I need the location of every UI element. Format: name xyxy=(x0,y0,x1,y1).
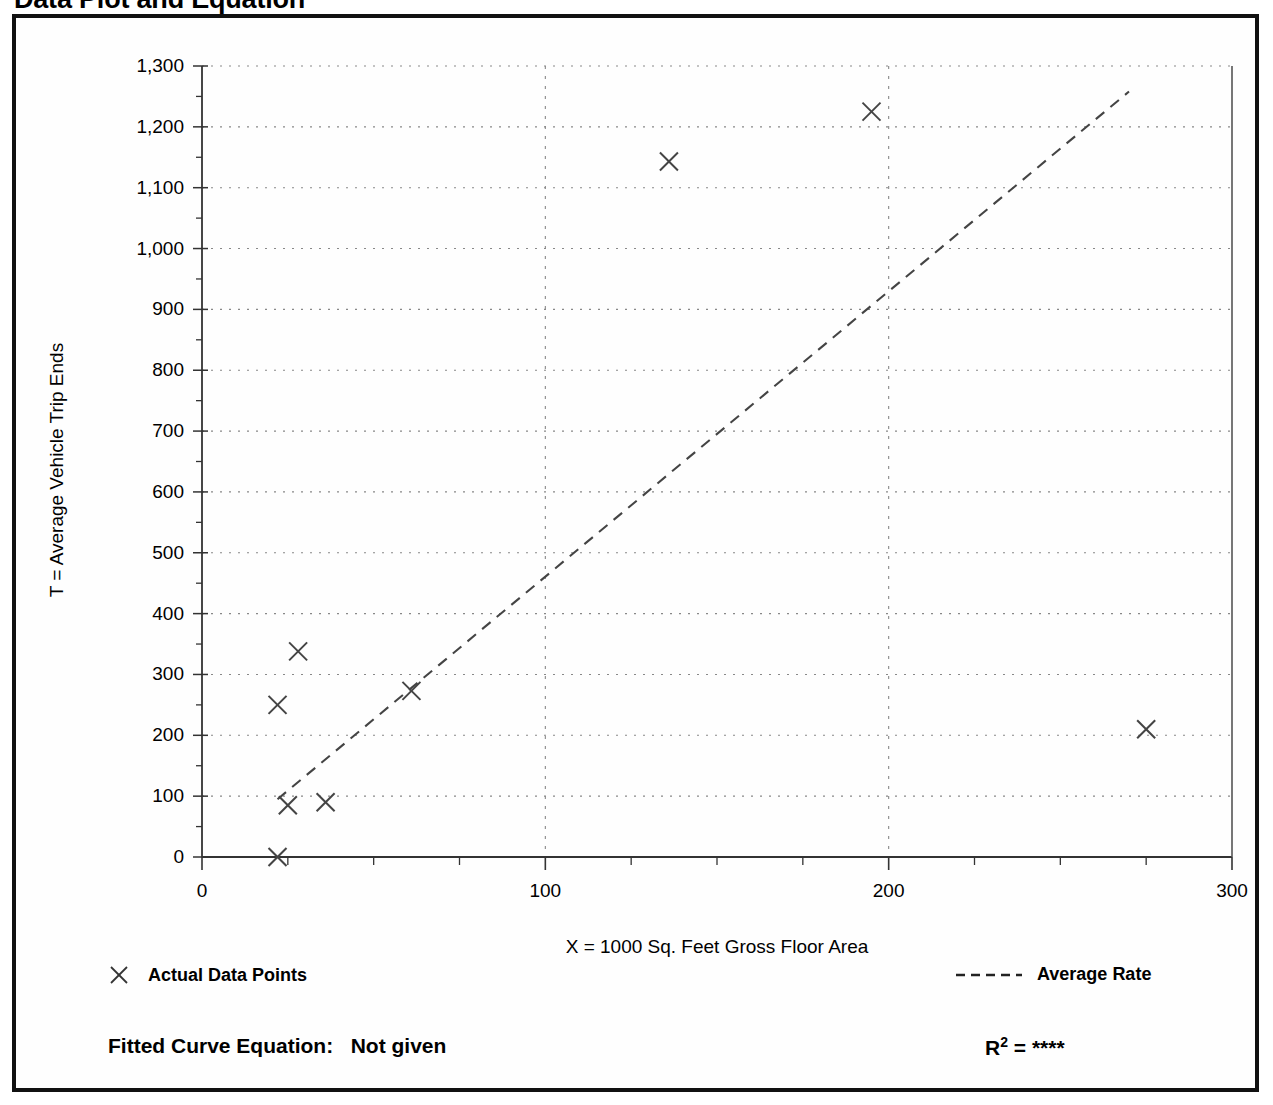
y-axis-tick-label: 200 xyxy=(74,725,184,744)
y-axis-tick-label: 400 xyxy=(74,604,184,623)
data-point-marker xyxy=(660,153,678,171)
data-point-marker xyxy=(269,696,287,714)
r-squared-label: R xyxy=(985,1036,1000,1059)
fitted-curve-equation: Fitted Curve Equation: Not given xyxy=(108,1034,446,1058)
data-point-marker xyxy=(1137,720,1155,738)
legend-entry-actual-data-points: Actual Data Points xyxy=(108,964,307,986)
r-squared-exponent: 2 xyxy=(1000,1034,1008,1050)
y-axis-tick-label: 900 xyxy=(74,299,184,318)
x-marker-icon xyxy=(108,964,130,986)
r-squared-equals: = xyxy=(1014,1036,1026,1059)
equation-row: Fitted Curve Equation: Not given R2 = **… xyxy=(0,1034,1273,1074)
r-squared-stars: **** xyxy=(1032,1036,1065,1059)
y-axis-title: T = Average Vehicle Trip Ends xyxy=(46,20,68,920)
axis-lines xyxy=(202,66,1232,857)
horizontal-gridlines xyxy=(202,66,1232,796)
average-rate-trendline xyxy=(278,92,1129,800)
x-axis-tick-label: 0 xyxy=(157,881,247,900)
data-point-marker xyxy=(279,796,297,814)
data-point-marker xyxy=(317,793,335,811)
y-axis-tick-label: 800 xyxy=(74,360,184,379)
fitted-curve-value: Not given xyxy=(351,1034,447,1057)
dashed-line-icon xyxy=(955,969,1023,981)
x-axis-tick-label: 200 xyxy=(844,881,934,900)
y-axis-tick-label: 1,200 xyxy=(74,117,184,136)
x-axis-tick-marks xyxy=(202,857,1232,870)
data-point-marker xyxy=(863,103,881,121)
legend-label-actual-data-points: Actual Data Points xyxy=(148,965,307,986)
y-axis-tick-label: 1,100 xyxy=(74,178,184,197)
chart-legend: Actual Data Points Average Rate xyxy=(0,964,1273,1004)
fitted-curve-label: Fitted Curve Equation: xyxy=(108,1034,333,1057)
y-axis-tick-label: 0 xyxy=(74,847,184,866)
y-axis-tick-marks xyxy=(193,66,208,857)
data-point-markers xyxy=(269,103,1156,866)
y-axis-tick-label: 600 xyxy=(74,482,184,501)
y-axis-tick-label: 500 xyxy=(74,543,184,562)
data-point-marker xyxy=(289,642,307,660)
legend-entry-average-rate: Average Rate xyxy=(955,964,1151,985)
x-axis-tick-label: 100 xyxy=(500,881,590,900)
y-axis-tick-label: 1,300 xyxy=(74,56,184,75)
data-point-marker xyxy=(402,682,420,700)
x-axis-title: X = 1000 Sq. Feet Gross Floor Area xyxy=(202,936,1232,958)
y-axis-tick-label: 700 xyxy=(74,421,184,440)
r-squared-value: R2 = **** xyxy=(985,1034,1065,1060)
y-axis-tick-label: 100 xyxy=(74,786,184,805)
scatter-chart: T = Average Vehicle Trip Ends X = 1000 S… xyxy=(0,0,1273,1105)
legend-label-average-rate: Average Rate xyxy=(1037,964,1151,985)
vertical-gridlines xyxy=(545,66,888,857)
x-axis-tick-label: 300 xyxy=(1187,881,1273,900)
y-axis-tick-label: 1,000 xyxy=(74,239,184,258)
y-axis-tick-label: 300 xyxy=(74,664,184,683)
